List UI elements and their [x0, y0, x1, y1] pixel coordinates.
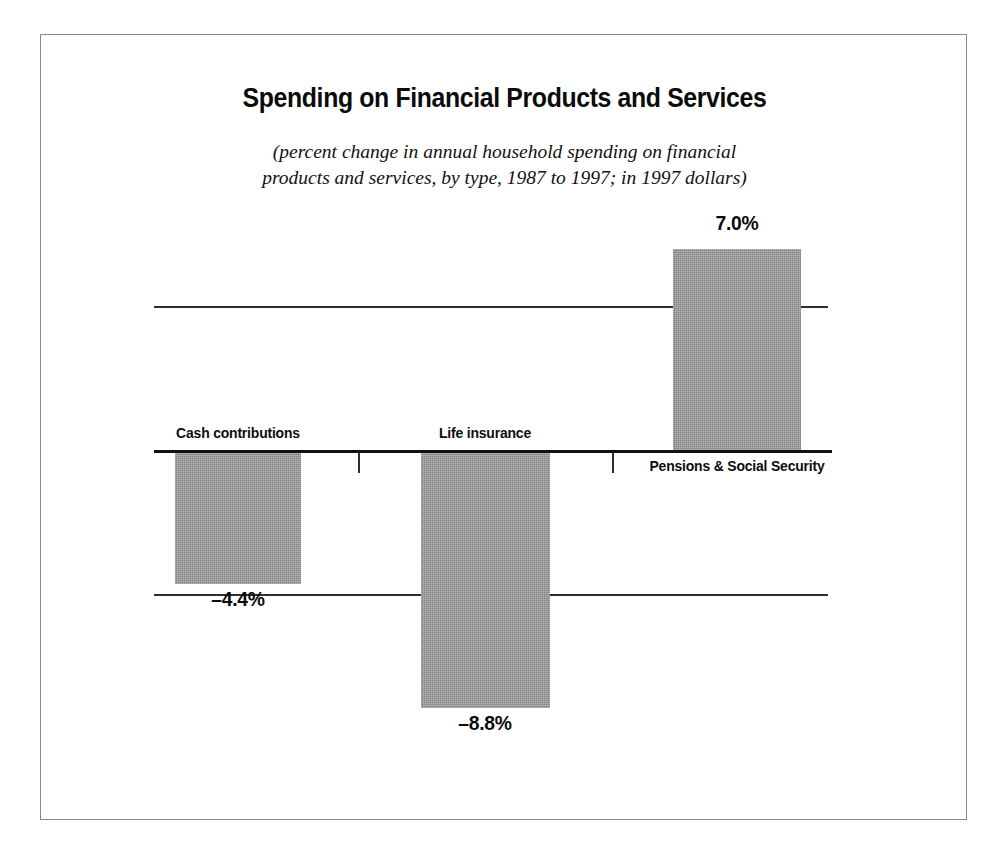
axis-tick-2	[612, 453, 614, 473]
value-label-pensions-social-security: 7.0%	[633, 211, 841, 235]
axis-zero-line	[154, 450, 832, 453]
bar-pensions-social-security	[673, 249, 801, 452]
category-label-pensions-social-security: Pensions & Social Security	[632, 457, 842, 474]
category-label-cash-contributions: Cash contributions	[133, 424, 343, 441]
bar-life-insurance	[421, 453, 550, 708]
value-label-cash-contributions: –4.4%	[134, 587, 342, 611]
figure-frame: Spending on Financial Products and Servi…	[40, 34, 967, 820]
bar-cash-contributions	[175, 452, 301, 584]
plot-area: Cash contributions Life insurance Pensio…	[41, 35, 968, 821]
category-label-life-insurance: Life insurance	[380, 424, 590, 441]
axis-tick-1	[358, 453, 360, 473]
value-label-life-insurance: –8.8%	[381, 711, 589, 735]
